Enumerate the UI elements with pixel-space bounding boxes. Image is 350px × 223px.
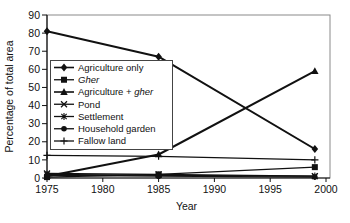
y-tick-label: 60 (28, 63, 40, 75)
square-marker (312, 164, 318, 170)
legend-label: Pond (78, 99, 100, 110)
diamond-marker (312, 145, 319, 153)
figure-container: Percentage of total area 010203040506070… (0, 0, 350, 223)
line-chart: 0102030405060708090197519801985199019952… (0, 0, 350, 223)
y-tick-label: 20 (28, 135, 40, 147)
legend-label: Fallow land (78, 135, 126, 146)
y-tick-label: 0 (34, 172, 40, 184)
x-tick-label: 1980 (91, 183, 115, 195)
circle-marker (312, 174, 318, 180)
x-axis-title: Year (47, 200, 326, 212)
series-line-fallow-land (47, 155, 315, 160)
y-tick-label: 80 (28, 27, 40, 39)
series-fallow-land (43, 152, 318, 164)
legend-label: Agriculture only (78, 62, 144, 73)
legend-label: Gher (78, 74, 100, 85)
triangle-marker (311, 67, 318, 74)
y-tick-label: 90 (28, 9, 40, 21)
y-tick-label: 10 (28, 154, 40, 166)
y-tick-label: 50 (28, 81, 40, 93)
plus-marker (43, 152, 50, 159)
y-tick-label: 40 (28, 99, 40, 111)
y-tick-label: 70 (28, 45, 40, 57)
x-tick-label: 2000 (314, 183, 338, 195)
square-marker (61, 77, 67, 83)
legend-label: Household garden (78, 123, 156, 134)
circle-marker (44, 172, 50, 178)
legend-label: Settlement (78, 111, 124, 122)
y-tick-label: 30 (28, 117, 40, 129)
x-tick-label: 1985 (147, 183, 171, 195)
circle-marker (61, 126, 67, 132)
x-tick-label: 1995 (259, 183, 283, 195)
x-tick-label: 1975 (35, 183, 59, 195)
diamond-marker (44, 27, 51, 35)
legend-label: Agriculture + gher (78, 86, 154, 97)
legend: Agriculture onlyGherAgriculture + gherPo… (51, 61, 173, 150)
diamond-marker (155, 53, 162, 61)
plus-marker (311, 156, 318, 163)
y-axis-title: Percentage of total area (3, 37, 16, 157)
circle-marker (156, 173, 162, 179)
x-tick-label: 1990 (203, 183, 227, 195)
